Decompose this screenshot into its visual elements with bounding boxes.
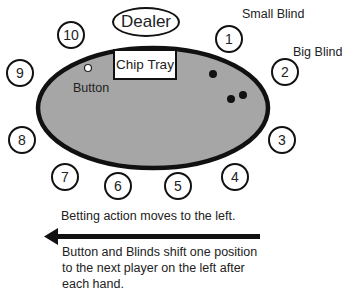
seat-2: 2 <box>271 58 299 86</box>
seat-5: 5 <box>164 172 192 200</box>
big-blind-chip-icon-1 <box>227 95 235 103</box>
big-blind-label: Big Blind <box>293 45 342 59</box>
dealer-position: Dealer <box>112 7 180 37</box>
dealer-button-marker-icon <box>85 65 92 72</box>
betting-action-caption: Betting action moves to the left. <box>61 208 235 224</box>
seat-8: 8 <box>8 126 36 154</box>
seat-4: 4 <box>221 163 249 191</box>
arrow-shaft <box>54 234 260 239</box>
seat-1: 1 <box>215 25 243 53</box>
big-blind-chip-icon-2 <box>239 91 247 99</box>
seat-10: 10 <box>57 21 85 49</box>
chip-tray: Chip Tray <box>113 49 177 80</box>
rotation-caption: Button and Blinds shift one position to … <box>62 244 262 292</box>
seat-3: 3 <box>268 126 296 154</box>
arrow-left-icon <box>44 228 58 245</box>
seat-9: 9 <box>6 59 34 87</box>
button-label: Button <box>73 81 109 95</box>
small-blind-chip-icon <box>209 70 217 78</box>
seat-6: 6 <box>104 172 132 200</box>
seat-7: 7 <box>51 163 79 191</box>
small-blind-label: Small Blind <box>242 7 305 21</box>
